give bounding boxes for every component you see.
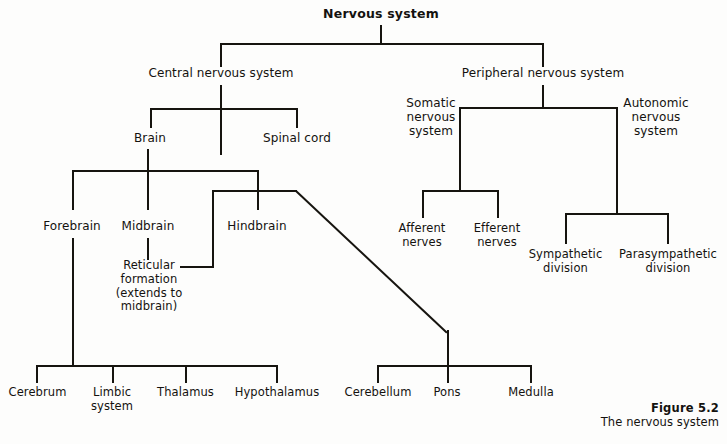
- node-limbic-system: Limbic system: [77, 386, 147, 413]
- edge-somatic-to-efferent: [497, 190, 499, 218]
- edge-brain-to-forebrain: [72, 170, 74, 210]
- node-afferent-nerves: Afferent nerves: [386, 222, 458, 249]
- edge-root-to-cns: [220, 43, 222, 67]
- edge-autonomic-bar: [565, 213, 668, 215]
- edge-pns-to-autonomic: [616, 107, 618, 214]
- edge-hindbrain-to-pons: [447, 365, 449, 383]
- edge-midbrain-to-reticular: [147, 238, 149, 260]
- node-brain: Brain: [110, 131, 190, 145]
- edge-cns-to-brain: [150, 108, 152, 128]
- nervous-system-figure: Nervous system Central nervous system Pe…: [0, 0, 727, 444]
- node-somatic-nervous-system: Somatic nervous system: [400, 96, 462, 138]
- node-spinal-cord: Spinal cord: [246, 131, 348, 145]
- edge-autonomic-to-parasympathetic: [667, 213, 669, 244]
- node-reticular-formation: Reticular formation (extends to midbrain…: [104, 259, 194, 314]
- edge-hindbrain-children-bar: [377, 365, 531, 367]
- edge-brain-stem: [147, 149, 149, 170]
- edge-hindbrain-diagonal-drop: [447, 330, 449, 366]
- node-sympathetic-division: Sympathetic division: [518, 248, 613, 275]
- edge-hindbrain-to-cerebellum: [377, 365, 379, 383]
- edge-forebrain-to-hypothalamus: [276, 365, 278, 383]
- edge-forebrain-stem: [72, 238, 74, 366]
- figure-caption-number: Figure 5.2: [601, 401, 719, 416]
- node-autonomic-nervous-system: Autonomic nervous system: [620, 96, 692, 138]
- edge-brain-to-hindbrain-drop: [257, 170, 259, 190]
- node-pons: Pons: [417, 386, 477, 400]
- node-thalamus: Thalamus: [148, 386, 223, 400]
- edge-hindbrain-stem: [257, 190, 259, 210]
- edge-cns-to-spinal-cord: [296, 108, 298, 128]
- node-hypothalamus: Hypothalamus: [221, 386, 333, 400]
- edge-cns-stem-tail: [220, 108, 222, 155]
- edge-brain-to-midbrain: [147, 170, 149, 210]
- edge-autonomic-to-sympathetic: [565, 213, 567, 244]
- node-cerebellum: Cerebellum: [337, 386, 419, 400]
- edge-somatic-to-afferent: [422, 190, 424, 218]
- edge-forebrain-bar: [36, 365, 277, 367]
- edge-pns-stem: [542, 85, 544, 107]
- edge-forebrain-to-limbic-system: [112, 365, 114, 383]
- edge-brain-bar: [72, 170, 259, 172]
- figure-caption: Figure 5.2 The nervous system: [601, 401, 719, 430]
- node-peripheral-nervous-system: Peripheral nervous system: [460, 66, 626, 80]
- figure-caption-text: The nervous system: [601, 415, 719, 430]
- edge-hindbrain-diagonal: [295, 190, 447, 333]
- edge-hindbrain-to-reticular-riser: [212, 190, 214, 268]
- edge-forebrain-to-thalamus: [185, 365, 187, 383]
- edge-forebrain-to-cerebrum: [36, 365, 38, 383]
- edge-root-bar: [220, 43, 544, 45]
- node-medulla: Medulla: [495, 386, 567, 400]
- node-forebrain: Forebrain: [32, 219, 112, 233]
- node-cerebrum: Cerebrum: [0, 386, 75, 400]
- edge-cns-stem: [220, 85, 222, 108]
- edge-pns-to-somatic: [459, 107, 461, 191]
- edge-root-to-pns: [542, 43, 544, 67]
- edge-hindbrain-bar: [212, 190, 297, 192]
- edge-hindbrain-to-medulla: [530, 365, 532, 383]
- node-nervous-system: Nervous system: [301, 7, 461, 22]
- node-efferent-nerves: Efferent nerves: [461, 222, 533, 249]
- node-hindbrain: Hindbrain: [217, 219, 297, 233]
- node-midbrain: Midbrain: [108, 219, 188, 233]
- edge-somatic-bar: [422, 190, 498, 192]
- node-parasympathetic-division: Parasympathetic division: [613, 248, 723, 275]
- node-central-nervous-system: Central nervous system: [141, 66, 301, 80]
- edge-pns-bar: [459, 107, 618, 109]
- edge-cns-bar: [150, 108, 298, 110]
- edge-root-stem: [380, 25, 382, 44]
